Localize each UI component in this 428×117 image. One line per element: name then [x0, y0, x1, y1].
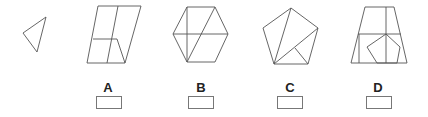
- option-c-answer-box[interactable]: [277, 96, 303, 109]
- target-triangle-shape: [23, 17, 46, 52]
- option-a-label: A: [93, 80, 123, 95]
- figure-a-parallelogram: [87, 6, 141, 63]
- option-b-label: B: [186, 80, 216, 95]
- option-c-label: C: [275, 80, 305, 95]
- option-d-label: D: [363, 80, 393, 95]
- figure-c-pentagon: [263, 8, 318, 64]
- figure-b-hexagon: [173, 7, 228, 62]
- option-b-answer-box[interactable]: [188, 96, 214, 109]
- option-d-answer-box[interactable]: [366, 96, 392, 109]
- figure-d-trapezoid: [351, 7, 407, 63]
- option-a-answer-box[interactable]: [96, 96, 122, 109]
- figures-canvas: [0, 0, 428, 117]
